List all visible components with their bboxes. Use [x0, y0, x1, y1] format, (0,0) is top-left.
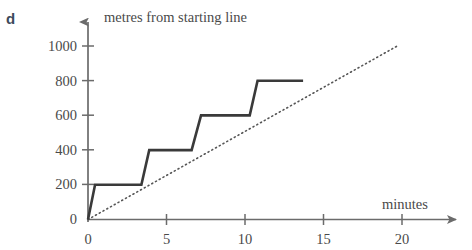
y-tick-label-800: 800	[55, 73, 77, 89]
x-tick-label-5: 5	[163, 231, 170, 247]
chart-figure: d 1000 800	[0, 0, 472, 250]
x-axis-title: minutes	[382, 196, 428, 212]
y-tick-label-400: 400	[55, 142, 77, 158]
y-tick-label-600: 600	[55, 107, 77, 123]
x-tick-label-15: 15	[316, 231, 331, 247]
y-tick-label-0: 0	[70, 211, 77, 227]
x-tick-label-10: 10	[238, 231, 253, 247]
distance-time-graph: 1000 800 600 400 200 0 0 5 10 15 20 metr…	[0, 0, 472, 250]
y-axis-title: metres from starting line	[104, 9, 247, 25]
y-tick-label-1000: 1000	[48, 38, 77, 54]
step-journey-series	[88, 81, 303, 220]
reference-line-series	[88, 46, 397, 220]
y-tick-label-200: 200	[55, 176, 77, 192]
x-tick-label-20: 20	[395, 231, 410, 247]
x-tick-label-0: 0	[84, 231, 91, 247]
